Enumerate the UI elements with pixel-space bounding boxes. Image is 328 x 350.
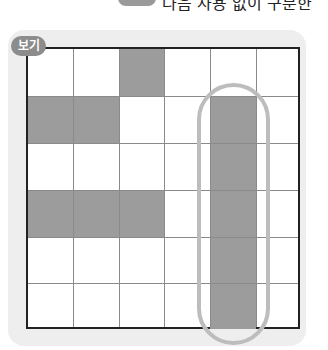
grid-line [73, 49, 74, 327]
grid-line [164, 49, 165, 327]
example-tag: 보기 [11, 36, 46, 56]
instruction-text: 다음 사용 없이 구분한 [162, 0, 312, 14]
capsule-highlight [197, 83, 270, 345]
shaded-block-row4 [28, 190, 165, 237]
shaded-cell [119, 49, 165, 96]
question-number-badge [118, 0, 156, 6]
grid-line [119, 49, 120, 327]
